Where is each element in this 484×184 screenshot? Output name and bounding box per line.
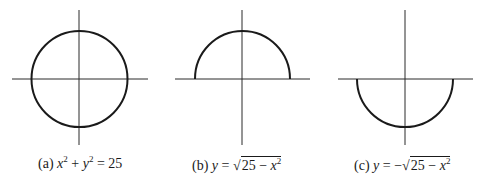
panel-b-tag: (b) [192,158,208,173]
exponent: 2 [446,156,451,166]
panel-a-tag: (a) [38,156,54,171]
panel-b-caption: (b) y = √25 − x2 [192,156,281,174]
panel-a-equation: x2 + y2 = 25 [57,156,122,171]
radicand: 25 − x2 [410,156,451,174]
radical-sign-icon: √ [402,158,410,173]
panel-c-graph [338,10,473,145]
equals-sign: = [218,158,233,173]
exponent: 2 [277,156,282,166]
radicand: 25 − x2 [241,156,282,174]
equals-rhs: = 25 [93,156,122,171]
equals-sign: = [379,158,394,173]
panel-c-tag: (c) [354,158,370,173]
circle-graphs-figure: (a) x2 + y2 = 25 (b) y = √25 − x2 (c) y … [0,0,484,184]
panel-a-graph [12,10,148,145]
panel-c-caption: (c) y = −√25 − x2 [354,156,450,174]
panel-a-caption: (a) x2 + y2 = 25 [38,156,122,172]
radicand-constant: 25 − [242,158,271,173]
radical-sign-icon: √ [233,158,241,173]
sqrt-expression: √25 − x2 [402,156,450,174]
radicand-constant: 25 − [411,158,440,173]
negative-sign: − [394,158,402,173]
plus-operator: + [68,156,83,171]
sqrt-expression: √25 − x2 [233,156,281,174]
panel-b-graph [175,10,310,145]
panel-b-equation: y = √25 − x2 [212,158,281,173]
panel-c-equation: y = −√25 − x2 [373,158,450,173]
